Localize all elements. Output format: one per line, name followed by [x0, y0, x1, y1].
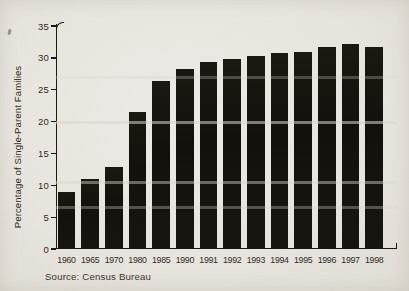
y-tick-label: 25	[26, 84, 49, 95]
y-tick-mark	[51, 25, 56, 26]
x-tick-label: 1992	[219, 255, 245, 265]
x-tick-label: 1960	[54, 255, 80, 265]
x-tick-label: 1991	[196, 255, 222, 265]
bar-1998	[365, 47, 383, 249]
x-tick-label: 1998	[361, 255, 387, 265]
y-axis-title: Percentage of Single-Parent Families	[12, 66, 23, 229]
x-axis-end-tick	[396, 243, 397, 249]
bar-1985	[152, 81, 170, 249]
x-tick-label: 1970	[101, 255, 127, 265]
x-tick-label: 1985	[148, 255, 174, 265]
bar-1980	[129, 112, 147, 249]
y-tick-label: 5	[26, 212, 49, 223]
bar-1993	[247, 56, 265, 249]
y-tick-mark	[51, 57, 56, 58]
x-tick-label: 1993	[243, 255, 269, 265]
y-tick-label: 0	[26, 244, 49, 255]
x-tick-label: 1994	[267, 255, 293, 265]
bar-1960	[58, 192, 76, 249]
bar-1995	[294, 52, 312, 249]
x-tick-label: 1995	[290, 255, 316, 265]
scan-speck	[7, 29, 11, 36]
y-tick-label: 20	[26, 116, 49, 127]
y-tick-mark	[51, 217, 56, 218]
bar-1997	[342, 44, 360, 249]
bar-1970	[105, 167, 123, 249]
x-tick-label: 1997	[338, 255, 364, 265]
source-note: Source: Census Bureau	[45, 271, 151, 282]
y-tick-label: 10	[26, 180, 49, 191]
y-tick-mark	[51, 89, 56, 90]
bar-1992	[223, 59, 241, 249]
x-tick-label: 1965	[77, 255, 103, 265]
bar-1991	[200, 62, 218, 249]
y-tick-label: 15	[26, 148, 49, 159]
y-tick-label: 30	[26, 52, 49, 63]
bar-1996	[318, 47, 336, 249]
x-tick-label: 1990	[172, 255, 198, 265]
x-tick-label: 1996	[314, 255, 340, 265]
y-tick-mark	[51, 248, 56, 249]
bar-1965	[81, 179, 99, 249]
figure-canvas: Percentage of Single-Parent Families 051…	[0, 0, 409, 291]
bar-1994	[271, 53, 289, 249]
x-tick-label: 1980	[125, 255, 151, 265]
y-tick-mark	[51, 153, 56, 154]
bar-1990	[176, 69, 194, 249]
y-tick-label: 35	[26, 21, 49, 32]
y-tick-mark	[51, 121, 56, 122]
y-tick-mark	[51, 185, 56, 186]
